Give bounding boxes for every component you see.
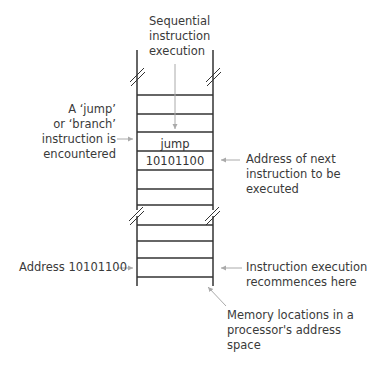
label-line: space <box>227 338 354 353</box>
label-line: execution <box>149 44 210 59</box>
label-line: recommences here <box>246 275 367 290</box>
label-line: A ‘jump’ <box>42 102 116 117</box>
label-line: or ‘branch’ <box>42 117 116 132</box>
label-line: Memory locations in a <box>227 308 354 323</box>
label-line: Address of next <box>246 152 341 167</box>
label-line: Sequential <box>149 14 210 29</box>
label-line: processor's address <box>227 323 354 338</box>
memory-locations-arrow <box>208 287 226 306</box>
address-cell-text: 10101100 <box>137 154 213 168</box>
next-address-label: Address of next instruction to be execut… <box>246 152 341 197</box>
memory-locations-label: Memory locations in a processor's addres… <box>227 308 354 353</box>
middle-break-icon <box>129 207 220 225</box>
target-address-label: Address 10101100 <box>19 260 127 275</box>
jump-cell-text: jump <box>137 137 213 151</box>
label-line: encountered <box>42 147 116 162</box>
sequential-execution-label: Sequential instruction execution <box>149 14 210 59</box>
memory-jump-diagram: Sequential instruction execution A ‘jump… <box>0 0 374 374</box>
label-line: instruction <box>149 29 210 44</box>
label-line: Instruction execution <box>246 260 367 275</box>
label-line: executed <box>246 182 341 197</box>
label-line: instruction to be <box>246 167 341 182</box>
lower-rails <box>137 216 213 286</box>
jump-encountered-label: A ‘jump’ or ‘branch’ instruction is enco… <box>42 102 116 162</box>
label-line: instruction is <box>42 132 116 147</box>
recommence-label: Instruction execution recommences here <box>246 260 367 290</box>
lower-rungs <box>137 225 213 277</box>
